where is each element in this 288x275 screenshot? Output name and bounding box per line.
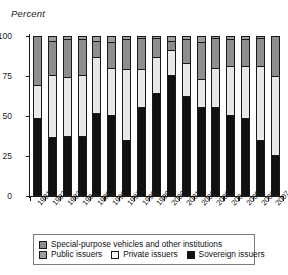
stacked-bar[interactable]: [152, 36, 161, 196]
x-label-slot: 1993: [60, 201, 75, 227]
bar-segment: [108, 69, 115, 116]
bar-segment: [242, 67, 249, 119]
bar-segment: [198, 108, 205, 195]
bar-segment: [34, 86, 41, 119]
bar-segment: [138, 39, 145, 71]
legend-label-public: Public issuers: [51, 250, 102, 259]
bar-segment: [93, 114, 100, 195]
bar-slot: [179, 36, 194, 196]
x-label-slot: 1998: [134, 201, 149, 227]
bar-segment: [168, 51, 175, 76]
stacked-bar[interactable]: [197, 36, 206, 196]
x-tick-mark: [30, 196, 31, 201]
y-tick-label: 75: [3, 72, 12, 81]
bar-slot: [149, 36, 164, 196]
bar-segment: [79, 40, 86, 76]
x-label-slot: 1995: [90, 201, 105, 227]
bar-segment: [198, 80, 205, 108]
bar-segment: [123, 40, 130, 70]
legend-item-public[interactable]: Public issuers: [39, 250, 102, 259]
x-label-slot: 1997: [119, 201, 134, 227]
stacked-bar[interactable]: [256, 36, 265, 196]
bar-segment: [153, 58, 160, 94]
bar-slot: [194, 36, 209, 196]
bar-segment: [257, 39, 264, 67]
stacked-bar[interactable]: [63, 36, 72, 196]
bar-slot: [134, 36, 149, 196]
stacked-bar[interactable]: [167, 36, 176, 196]
y-tick-label: 0: [7, 192, 12, 201]
stacked-bar[interactable]: [33, 36, 42, 196]
bar-segment: [138, 108, 145, 195]
y-axis-tick-labels: 0255075100: [0, 36, 22, 196]
bar-segment: [153, 39, 160, 58]
bar-segment: [123, 141, 130, 195]
bar-segment: [257, 141, 264, 195]
legend-row-2: Public issuers Private issuers Sovereign…: [39, 250, 249, 259]
bar-segment: [123, 70, 130, 141]
bar-segment: [227, 116, 234, 195]
bar-segment: [138, 70, 145, 108]
legend-row-1: Special-purpose vehicles and other insti…: [39, 240, 249, 249]
bar-segment: [183, 64, 190, 97]
stacked-bar[interactable]: [182, 36, 191, 196]
stacked-bar[interactable]: [137, 36, 146, 196]
bar-segment: [183, 97, 190, 195]
bar-segment: [212, 39, 219, 69]
bar-segment: [64, 137, 71, 195]
stacked-bar[interactable]: [226, 36, 235, 196]
legend-label-spv: Special-purpose vehicles and other insti…: [51, 240, 222, 249]
bar-segment: [168, 76, 175, 195]
bar-segment: [49, 138, 56, 195]
bar-slot: [75, 36, 90, 196]
bar-segment: [227, 40, 234, 67]
stacked-bar[interactable]: [107, 36, 116, 196]
x-label-slot: 2000: [164, 201, 179, 227]
x-label-slot: 2002: [194, 201, 209, 227]
bar-segment: [49, 42, 56, 77]
bar-slot: [223, 36, 238, 196]
stacked-bar[interactable]: [48, 36, 57, 196]
x-label-slot: 1991: [30, 201, 45, 227]
legend-swatch-sovereign-icon: [187, 251, 195, 259]
legend-label-private: Private issuers: [123, 250, 177, 259]
bar-slot: [90, 36, 105, 196]
bar-slot: [45, 36, 60, 196]
stacked-bar[interactable]: [211, 36, 220, 196]
legend: Special-purpose vehicles and other insti…: [33, 234, 255, 265]
bar-segment: [34, 119, 41, 195]
bar-slot: [60, 36, 75, 196]
legend-swatch-public-icon: [39, 251, 47, 259]
x-label-slot: 2001: [179, 201, 194, 227]
plot-area: [30, 36, 283, 196]
bar-segment: [272, 37, 279, 77]
legend-item-sovereign[interactable]: Sovereign issuers: [187, 250, 265, 259]
legend-item-private[interactable]: Private issuers: [111, 250, 177, 259]
legend-swatch-private-icon: [111, 251, 119, 259]
bar-segment: [227, 67, 234, 116]
bar-segment: [242, 119, 249, 195]
stacked-bar[interactable]: [92, 36, 101, 196]
legend-item-spv[interactable]: Special-purpose vehicles and other insti…: [39, 240, 222, 249]
legend-swatch-spv-icon: [39, 241, 47, 249]
stacked-bar[interactable]: [78, 36, 87, 196]
bar-segment: [64, 78, 71, 136]
y-tick-label: 100: [0, 32, 12, 41]
stacked-bar[interactable]: [122, 36, 131, 196]
bar-segment: [64, 40, 71, 78]
bar-slot: [119, 36, 134, 196]
bar-slot: [209, 36, 224, 196]
bar-slot: [238, 36, 253, 196]
x-label-slot: 1992: [45, 201, 60, 227]
bar-segment: [49, 76, 56, 138]
x-label-slot: 2005: [238, 201, 253, 227]
stacked-bar[interactable]: [241, 36, 250, 196]
y-tick-label: 50: [3, 112, 12, 121]
bar-segment: [153, 94, 160, 195]
bar-segment: [272, 77, 279, 156]
bar-segment: [34, 37, 41, 86]
bar-slot: [104, 36, 119, 196]
x-axis-labels: 1991199219931994199519961997199819992000…: [30, 201, 283, 227]
stacked-bar[interactable]: [271, 36, 280, 196]
bar-segment: [272, 156, 279, 196]
